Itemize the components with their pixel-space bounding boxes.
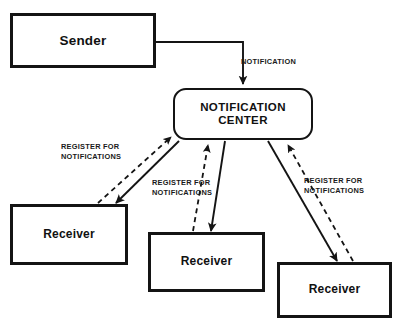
edge-label-register-right-line1: REGISTER FOR bbox=[304, 176, 362, 185]
node-notification-center[interactable]: NOTIFICATIONCENTER bbox=[173, 88, 313, 140]
node-receiver-3[interactable]: Receiver bbox=[277, 262, 392, 318]
node-sender[interactable]: Sender bbox=[10, 13, 156, 68]
edge-label-register-left: REGISTER FORNOTIFICATIONS bbox=[61, 142, 121, 162]
node-notification-center-label-line2: CENTER bbox=[218, 114, 268, 126]
edge-label-register-middle-line1: REGISTER FOR bbox=[152, 178, 210, 187]
edge-label-register-left-line1: REGISTER FOR bbox=[61, 142, 119, 151]
edge-label-notification-text: NOTIFICATION bbox=[241, 57, 296, 66]
node-receiver-2[interactable]: Receiver bbox=[148, 232, 265, 292]
node-sender-label: Sender bbox=[60, 33, 107, 49]
edge-center-to-receiver-2 bbox=[211, 141, 225, 231]
edge-receiver-3-to-center bbox=[288, 145, 353, 261]
edge-label-register-middle: REGISTER FORNOTIFICATIONS bbox=[152, 178, 212, 198]
edge-label-register-right-line2: NOTIFICATIONS bbox=[304, 186, 364, 195]
edge-label-register-right: REGISTER FORNOTIFICATIONS bbox=[304, 176, 364, 196]
notification-center-diagram: Sender NOTIFICATIONCENTER Receiver Recei… bbox=[0, 0, 401, 329]
node-receiver-2-label: Receiver bbox=[181, 255, 233, 269]
edge-center-to-receiver-3 bbox=[268, 141, 337, 261]
edge-sender-to-center bbox=[156, 42, 243, 84]
node-receiver-1-label: Receiver bbox=[43, 228, 95, 242]
node-receiver-3-label: Receiver bbox=[309, 283, 361, 297]
edge-label-notification: NOTIFICATION bbox=[241, 57, 296, 67]
edge-label-register-left-line2: NOTIFICATIONS bbox=[61, 152, 121, 161]
node-notification-center-label-line1: NOTIFICATION bbox=[200, 101, 286, 113]
node-receiver-1[interactable]: Receiver bbox=[10, 204, 128, 265]
node-notification-center-label: NOTIFICATIONCENTER bbox=[200, 101, 286, 127]
edge-label-register-middle-line2: NOTIFICATIONS bbox=[152, 188, 212, 197]
